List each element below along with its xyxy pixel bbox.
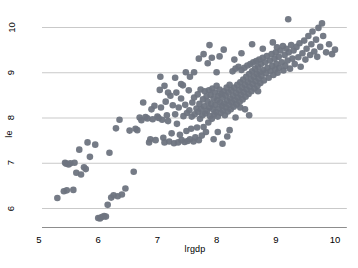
y-tick-label-10: 10 (0, 20, 22, 34)
data-point (64, 187, 71, 194)
data-point (122, 185, 129, 192)
data-point (224, 133, 231, 140)
data-point (104, 202, 111, 209)
y-tick-label-6: 6 (0, 201, 22, 215)
data-point (320, 33, 327, 40)
data-point (249, 41, 256, 48)
data-point (161, 83, 168, 90)
data-point (326, 41, 333, 48)
data-point (231, 56, 238, 63)
data-point (200, 51, 207, 58)
data-point (54, 195, 61, 202)
data-point (178, 81, 185, 88)
scatter-plot-figure: le 678910 5678910 lrgdp (0, 0, 358, 268)
y-tick-label-text: 10 (5, 22, 16, 33)
data-point (162, 98, 169, 105)
data-point (219, 140, 226, 147)
data-point (238, 50, 245, 57)
y-tick-label-text: 8 (5, 115, 16, 120)
data-point (317, 44, 324, 51)
data-point (220, 46, 227, 53)
data-point (168, 130, 175, 137)
data-point (186, 107, 193, 114)
data-point (185, 87, 192, 94)
data-point (87, 154, 94, 161)
data-point (116, 116, 123, 123)
data-point (297, 64, 304, 71)
y-tick-label-text: 9 (5, 70, 16, 75)
data-point (313, 36, 320, 43)
data-point (84, 139, 91, 146)
data-point (206, 42, 213, 49)
data-point (209, 54, 216, 61)
y-tick-label-9: 9 (0, 65, 22, 79)
data-point (226, 127, 233, 134)
data-point (255, 88, 262, 95)
data-point (152, 137, 159, 144)
data-point (178, 95, 185, 102)
data-point (242, 106, 249, 113)
data-point (332, 46, 339, 53)
data-point (285, 16, 292, 23)
data-point (103, 213, 110, 220)
data-point (291, 61, 298, 68)
data-point-group (54, 16, 338, 222)
data-point (165, 89, 172, 96)
data-point (172, 111, 179, 118)
data-point (213, 69, 220, 76)
data-point (151, 102, 158, 109)
data-point (126, 127, 133, 134)
data-point (191, 69, 198, 76)
data-point (175, 104, 182, 111)
data-point (270, 39, 277, 46)
data-point (319, 20, 326, 27)
data-point (246, 112, 253, 119)
data-point (309, 28, 316, 35)
data-point (82, 166, 89, 173)
data-point (204, 60, 211, 67)
data-point (173, 89, 180, 96)
y-axis-title-label: le (4, 130, 14, 137)
data-point (164, 112, 171, 119)
data-point (113, 125, 120, 132)
data-point (134, 127, 141, 134)
y-tick-label-7: 7 (0, 156, 22, 170)
data-point (76, 146, 83, 153)
data-point (70, 187, 77, 194)
data-point (214, 129, 221, 136)
x-axis-title-label: lrgdp (184, 244, 205, 254)
data-point (140, 99, 147, 106)
data-point (314, 54, 321, 61)
y-tick-label-8: 8 (0, 111, 22, 125)
data-point (323, 49, 330, 56)
data-point (194, 124, 201, 131)
data-point (203, 129, 210, 136)
data-point (188, 126, 195, 133)
y-tick-label-text: 7 (5, 160, 16, 165)
data-point (216, 53, 223, 60)
data-point (183, 69, 190, 76)
data-point (119, 191, 126, 198)
data-point (71, 159, 78, 166)
data-point (130, 169, 137, 176)
plot-area (42, 8, 348, 228)
plot-canvas (42, 8, 348, 228)
data-point (106, 150, 113, 157)
data-point (92, 141, 99, 148)
y-axis-title: le (0, 0, 18, 268)
data-point (165, 118, 172, 125)
data-point (169, 102, 176, 109)
data-point (174, 121, 181, 128)
data-point (182, 102, 189, 109)
x-axis-title: lrgdp (42, 244, 348, 254)
data-point (210, 136, 217, 143)
data-point (232, 114, 239, 121)
data-point (78, 171, 85, 178)
data-point (259, 45, 266, 52)
data-point (158, 104, 165, 111)
y-tick-label-text: 6 (5, 205, 16, 210)
data-point (172, 74, 179, 81)
data-point (157, 73, 164, 80)
